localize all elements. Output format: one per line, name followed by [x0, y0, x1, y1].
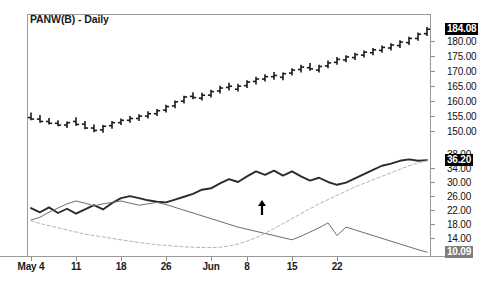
y-tick: [431, 41, 435, 42]
x-tick: [211, 257, 212, 261]
axis-value-label: 184.08: [445, 23, 478, 35]
date-label: 26: [161, 261, 172, 272]
y-tick: [431, 101, 435, 102]
axis-value-label: 155.00: [447, 111, 476, 122]
y-tick: [431, 56, 435, 57]
axis-value-label: 165.00: [447, 81, 476, 92]
y-tick: [431, 131, 435, 132]
axis-value-label: 10.09: [445, 246, 473, 258]
axis-value-label: 170.00: [447, 66, 476, 77]
axis-value-label: 18.00: [447, 219, 471, 230]
axis-value-label: 175.00: [447, 51, 476, 62]
date-label: 22: [332, 261, 343, 272]
axis-value-label: 180.00: [447, 36, 476, 47]
y-tick: [431, 116, 435, 117]
x-tick: [121, 257, 122, 261]
axis-value-label: 26.00: [447, 191, 471, 202]
y-tick: [431, 168, 435, 169]
x-tick: [76, 257, 77, 261]
axis-value-label: 160.00: [447, 96, 476, 107]
x-tick: [292, 257, 293, 261]
y-tick: [431, 210, 435, 211]
axis-value-label: 30.00: [447, 176, 471, 187]
y-tick: [431, 86, 435, 87]
y-tick: [431, 224, 435, 225]
date-label: 15: [287, 261, 298, 272]
axis-value-label: 22.00: [447, 205, 471, 216]
date-label: 8: [244, 261, 249, 272]
axis-value-label: 34.00: [447, 162, 471, 173]
y-tick: [431, 196, 435, 197]
x-tick: [247, 257, 248, 261]
annotation-layer: [0, 0, 497, 284]
y-tick: [431, 238, 435, 239]
buy-arrow-marker: [258, 200, 266, 215]
x-tick: [166, 257, 167, 261]
axis-value-label: 150.00: [447, 126, 476, 137]
y-tick: [431, 182, 435, 183]
date-label: 18: [116, 261, 127, 272]
date-label: May 4: [18, 261, 45, 272]
y-tick: [431, 71, 435, 72]
x-tick: [337, 257, 338, 261]
axis-value-label: 14.00: [447, 233, 471, 244]
date-label: Jun: [202, 261, 219, 272]
x-tick: [31, 257, 32, 261]
date-label: 11: [71, 261, 81, 272]
stock-chart: PANW(B) - Daily 184.08180.00175.00170.00…: [0, 0, 497, 284]
